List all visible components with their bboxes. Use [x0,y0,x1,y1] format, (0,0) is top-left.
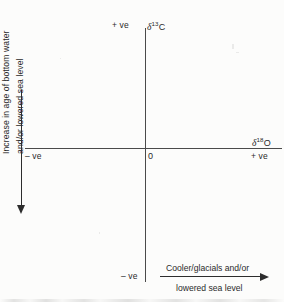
left-annotation-line-1: Increase in age of bottom water [1,31,11,154]
delta-symbol-o18: δ18O [252,138,271,148]
vertical-axis-negative-label: – ve [121,271,137,281]
bottom-annotation-line-2: lowered sea level [176,283,242,293]
o18-element: O [264,138,271,148]
horizontal-axis-negative-label: – ve [25,151,41,161]
down-arrow-icon [17,205,25,214]
vertical-axis-positive-label: + ve [112,20,129,30]
right-arrow-icon [260,273,269,281]
c13-element: C [159,22,166,32]
left-annotation-line-2: and/or lowered sea level [15,58,25,154]
horizontal-axis-line [25,148,282,149]
scan-speck [236,52,239,53]
down-arrow-shaft [21,90,22,208]
delta-symbol-c13: δ13C [147,22,165,32]
horizontal-axis-positive-label: + ve [251,151,268,161]
c13-superscript: 13 [152,20,159,27]
o18-superscript: 18 [257,136,264,143]
vertical-axis-name: δ13C [147,19,165,32]
origin-label: 0 [148,151,153,161]
scan-speck [232,44,234,49]
vertical-axis-line [145,28,146,282]
isotope-crossplot-figure: + ve δ13C – ve – ve + ve δ18O 0 Increase… [0,0,284,302]
scan-speck [60,58,61,59]
scan-speck [99,232,100,234]
bottom-annotation-line-1: Cooler/glacials and/or [166,263,249,273]
right-arrow-shaft [160,276,262,277]
horizontal-axis-name: δ18O [252,135,271,148]
